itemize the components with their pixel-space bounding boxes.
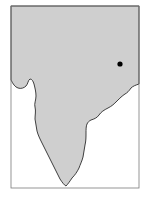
marker-layer [117,61,122,66]
map-canvas [0,0,147,200]
location-dot-marker [117,61,122,66]
